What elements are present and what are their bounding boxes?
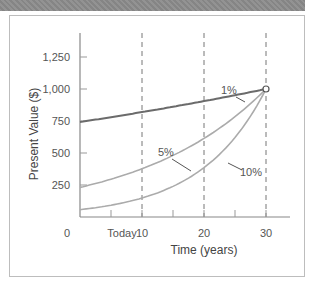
series-label: 1% [221, 84, 237, 96]
x-tick-label: 30 [260, 227, 272, 239]
labels: 2505007501,0001,25001020301%5%10% [42, 51, 272, 239]
x-origin-label: Today [107, 227, 137, 239]
label-leader-line [172, 159, 191, 171]
x-tick-label: 0 [64, 227, 70, 239]
x-tick-label: 10 [136, 227, 148, 239]
y-axis-title: Present Value ($) [27, 88, 41, 181]
y-tick-label: 1,000 [42, 83, 70, 95]
endpoint-marker [263, 86, 269, 92]
axes [80, 33, 290, 217]
series-label: 10% [240, 166, 262, 178]
y-tick-label: 500 [52, 147, 70, 159]
gridlines [142, 33, 266, 217]
series-line-1pct [80, 89, 266, 122]
chart: 2505007501,0001,25001020301%5%10% Presen… [0, 0, 321, 289]
y-tick-label: 250 [52, 179, 70, 191]
x-axis-title: Time (years) [171, 243, 238, 257]
series-label: 5% [158, 146, 174, 158]
label-leader-line [236, 97, 245, 102]
y-tick-label: 1,250 [42, 51, 70, 63]
y-tick-label: 750 [52, 115, 70, 127]
x-tick-label: 20 [198, 227, 210, 239]
series-line-5pct [80, 89, 266, 187]
